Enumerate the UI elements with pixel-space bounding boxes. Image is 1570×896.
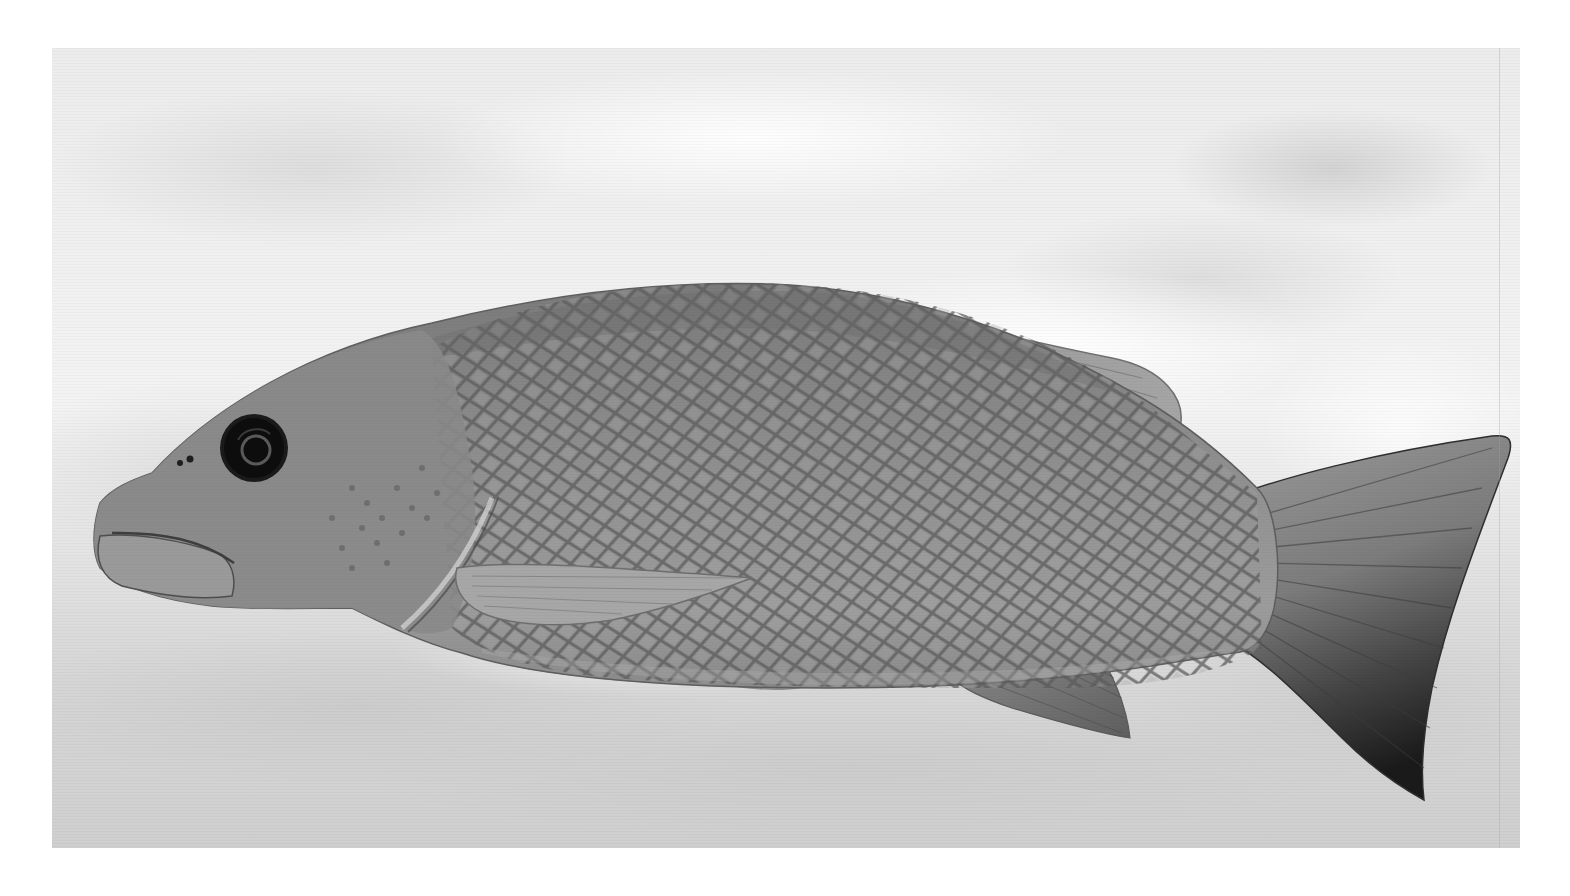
nostril: [187, 456, 194, 463]
fish-eye: [220, 414, 288, 482]
fish-illustration: [52, 48, 1520, 848]
scan-edge-line: [1499, 48, 1500, 848]
fish-photo: [52, 48, 1520, 848]
nostril: [177, 460, 183, 466]
image-canvas: [0, 0, 1570, 896]
